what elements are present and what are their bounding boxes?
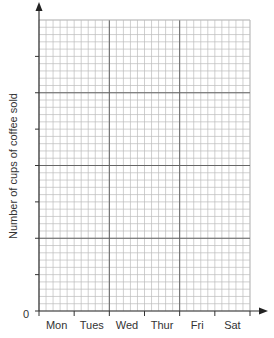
chart-canvas: MonTuesWedThurFriSat 0 Number of cups of… <box>0 0 274 338</box>
x-axis-arrow-icon <box>259 308 268 315</box>
y-axis-arrow-icon <box>36 2 43 11</box>
x-tick-label-fri: Fri <box>191 319 204 331</box>
x-tick-label-tues: Tues <box>80 319 105 331</box>
x-tick-label-wed: Wed <box>116 319 138 331</box>
y-axis-title: Number of cups of coffee sold <box>7 93 19 239</box>
x-tick-label-sat: Sat <box>224 319 241 331</box>
x-tick-label-mon: Mon <box>46 319 67 331</box>
y-zero-label: 0 <box>23 308 29 320</box>
x-tick-labels: MonTuesWedThurFriSat <box>46 319 241 331</box>
x-tick-label-thur: Thur <box>151 319 174 331</box>
